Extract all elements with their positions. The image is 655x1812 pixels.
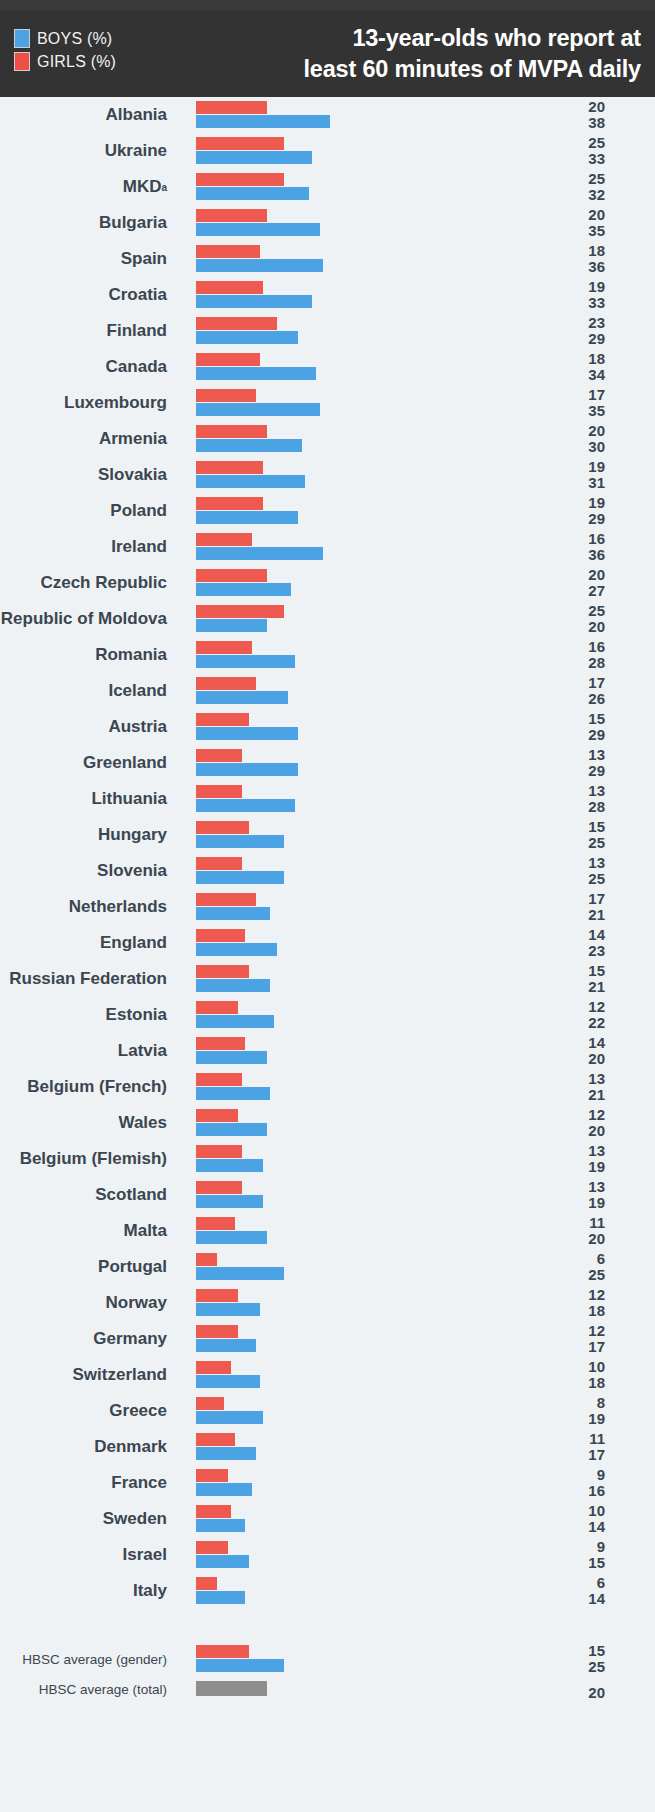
chart-row: Russian Federation1521 <box>0 961 655 997</box>
value-girls: 15 <box>0 963 605 979</box>
value-boys: 17 <box>0 1447 605 1463</box>
chart-row: Finland2329 <box>0 313 655 349</box>
value-girls: 20 <box>0 207 605 223</box>
value-boys: 19 <box>0 1159 605 1175</box>
value-boys: 29 <box>0 331 605 347</box>
value-boys: 29 <box>0 727 605 743</box>
value-boys: 25 <box>0 1267 605 1283</box>
chart-row: Norway1218 <box>0 1285 655 1321</box>
chart-row: Ireland1636 <box>0 529 655 565</box>
chart-row: Czech Republic2027 <box>0 565 655 601</box>
value-girls: 20 <box>0 423 605 439</box>
value-girls: 17 <box>0 387 605 403</box>
value-boys: 29 <box>0 511 605 527</box>
value-girls: 14 <box>0 927 605 943</box>
value-pair: 1834 <box>0 351 605 383</box>
chart-row: Bulgaria2035 <box>0 205 655 241</box>
value-pair: 915 <box>0 1539 605 1571</box>
value-boys: 19 <box>0 1195 605 1211</box>
value-girls: 23 <box>0 315 605 331</box>
chart-row: Germany1217 <box>0 1321 655 1357</box>
chart-row: Slovenia1325 <box>0 853 655 889</box>
chart-row: Luxembourg1735 <box>0 385 655 421</box>
chart-row: MKDa2532 <box>0 169 655 205</box>
value-girls: 12 <box>0 1287 605 1303</box>
chart-rows: Albania2038Ukraine2533MKDa2532Bulgaria20… <box>0 97 655 1609</box>
value-girls: 6 <box>0 1575 605 1591</box>
value-boys: 20 <box>0 1231 605 1247</box>
chart-row: Malta1120 <box>0 1213 655 1249</box>
chart-row: Hungary1525 <box>0 817 655 853</box>
value-pair: 1636 <box>0 531 605 563</box>
value-pair: 2035 <box>0 207 605 239</box>
value-boys: 36 <box>0 547 605 563</box>
chart-page: BOYS (%) GIRLS (%) 13-year-olds who repo… <box>0 0 655 1812</box>
value-boys: 20 <box>0 619 605 635</box>
value-girls: 20 <box>0 99 605 115</box>
value-pair: 2520 <box>0 603 605 635</box>
value-pair: 1014 <box>0 1503 605 1535</box>
value-boys: 35 <box>0 403 605 419</box>
value-pair: 1726 <box>0 675 605 707</box>
value-girls: 17 <box>0 891 605 907</box>
chart-row: Greece819 <box>0 1393 655 1429</box>
value-girls: 20 <box>0 567 605 583</box>
value-girls: 14 <box>0 1035 605 1051</box>
value-boys: 26 <box>0 691 605 707</box>
value-boys: 28 <box>0 799 605 815</box>
value-girls: 12 <box>0 1107 605 1123</box>
value-girls: 9 <box>0 1467 605 1483</box>
value-boys: 31 <box>0 475 605 491</box>
value-pair: 1628 <box>0 639 605 671</box>
value-pair: 1319 <box>0 1143 605 1175</box>
chart-row: Sweden1014 <box>0 1501 655 1537</box>
value-boys: 34 <box>0 367 605 383</box>
chart-row: Portugal625 <box>0 1249 655 1285</box>
value-pair: 1117 <box>0 1431 605 1463</box>
value-pair: 1931 <box>0 459 605 491</box>
chart-row: Wales1220 <box>0 1105 655 1141</box>
value-boys: 28 <box>0 655 605 671</box>
value-girls: 19 <box>0 459 605 475</box>
value-pair: 2532 <box>0 171 605 203</box>
legend-swatch-boys-icon <box>14 29 30 48</box>
chart-header: BOYS (%) GIRLS (%) 13-year-olds who repo… <box>0 11 655 97</box>
value-pair: 1721 <box>0 891 605 923</box>
value-boys: 20 <box>0 1123 605 1139</box>
value-girls: 16 <box>0 639 605 655</box>
average-value-total: 20 <box>0 1685 605 1701</box>
value-pair: 1735 <box>0 387 605 419</box>
value-pair: 1120 <box>0 1215 605 1247</box>
value-pair: 2329 <box>0 315 605 347</box>
legend-item-boys: BOYS (%) <box>14 27 116 50</box>
value-girls: 19 <box>0 279 605 295</box>
value-boys: 25 <box>0 871 605 887</box>
legend-swatch-girls-icon <box>14 52 30 71</box>
chart-row: Denmark1117 <box>0 1429 655 1465</box>
chart-row: England1423 <box>0 925 655 961</box>
value-pair: 1222 <box>0 999 605 1031</box>
value-girls: 12 <box>0 1323 605 1339</box>
value-pair: 1525 <box>0 819 605 851</box>
value-boys: 29 <box>0 763 605 779</box>
value-boys: 21 <box>0 1087 605 1103</box>
value-girls: 11 <box>0 1431 605 1447</box>
value-girls: 16 <box>0 531 605 547</box>
value-boys: 14 <box>0 1591 605 1607</box>
value-pair: 2027 <box>0 567 605 599</box>
value-girls: 25 <box>0 171 605 187</box>
chart-row: Romania1628 <box>0 637 655 673</box>
chart-row: Poland1929 <box>0 493 655 529</box>
value-pair: 1836 <box>0 243 605 275</box>
chart-row: Armenia2030 <box>0 421 655 457</box>
value-girls: 13 <box>0 1179 605 1195</box>
value-boys: 16 <box>0 1483 605 1499</box>
value-girls: 13 <box>0 1143 605 1159</box>
chart-row: Croatia1933 <box>0 277 655 313</box>
chart-row: Belgium (French)1321 <box>0 1069 655 1105</box>
chart-row: Italy614 <box>0 1573 655 1609</box>
chart-row: Netherlands1721 <box>0 889 655 925</box>
value-pair: 2038 <box>0 99 605 131</box>
chart-row: Greenland1329 <box>0 745 655 781</box>
chart-row: Israel915 <box>0 1537 655 1573</box>
